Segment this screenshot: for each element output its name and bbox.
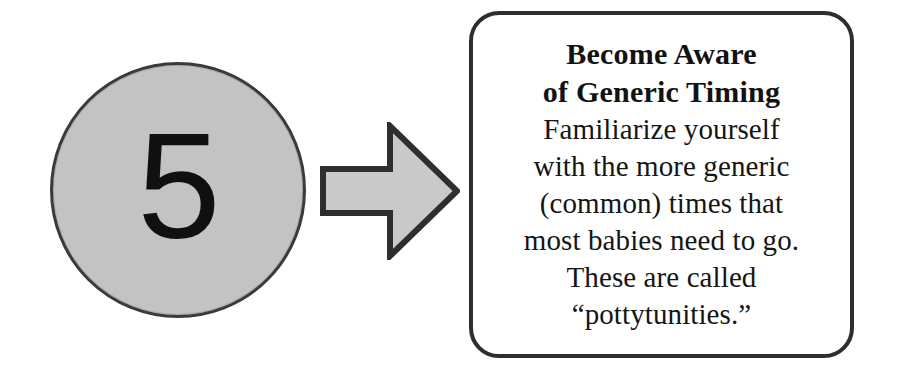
callout-title-line-2: of Generic Timing: [543, 73, 780, 111]
callout-body-line-6: “pottytunities.”: [524, 296, 799, 333]
callout-body: Familiarize yourself with the more gener…: [524, 111, 799, 333]
step-number-circle: 5: [50, 62, 306, 318]
callout-body-line-3: (common) times that: [524, 185, 799, 222]
right-arrow-icon: [320, 122, 460, 260]
callout-title: Become Aware of Generic Timing: [543, 35, 780, 111]
callout-body-line-5: These are called: [524, 259, 799, 296]
callout-body-line-1: Familiarize yourself: [524, 111, 799, 148]
callout-body-line-4: most babies need to go.: [524, 222, 799, 259]
callout-body-line-2: with the more generic: [524, 148, 799, 185]
callout-title-line-1: Become Aware: [543, 35, 780, 73]
callout-box: Become Aware of Generic Timing Familiari…: [469, 11, 854, 358]
step-number-label: 5: [137, 111, 218, 261]
diagram-canvas: 5 Become Aware of Generic Timing Familia…: [0, 0, 900, 382]
